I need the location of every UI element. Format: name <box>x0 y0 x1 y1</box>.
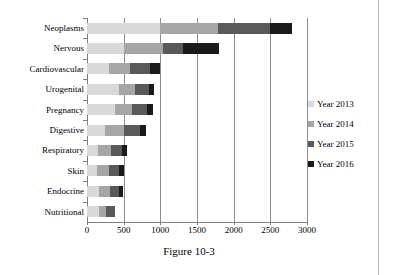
x-tick-label-500: 500 <box>117 225 131 235</box>
bar-row: Neoplasms <box>0 18 378 38</box>
legend-item-year-2015[interactable]: Year 2015 <box>308 134 378 154</box>
category-label-nutritional: Nutritional <box>0 202 84 222</box>
figure-container: NeoplasmsNervousCardiovascularUrogenital… <box>0 0 378 275</box>
category-label-skin: Skin <box>0 161 84 181</box>
bar-segment-year-2014 <box>115 104 132 115</box>
category-label-cardiovascular: Cardiovascular <box>0 59 84 79</box>
chart-legend: Year 2013Year 2014Year 2015Year 2016 <box>308 94 378 174</box>
stacked-bar <box>87 84 154 95</box>
x-tick-label-3000: 3000 <box>298 225 316 235</box>
bar-segment-year-2016 <box>270 23 292 34</box>
bar-segment-year-2015 <box>109 165 119 176</box>
bar-segment-year-2015 <box>110 186 118 197</box>
bar-segment-year-2016 <box>149 84 155 95</box>
square-swatch-icon <box>308 161 314 167</box>
bar-segment-year-2013 <box>87 63 109 74</box>
bar-segment-year-2014 <box>160 23 217 34</box>
legend-label: Year 2014 <box>317 119 354 129</box>
bar-row: Endocrine <box>0 181 378 201</box>
stacked-bar <box>87 145 127 156</box>
bar-segment-year-2016 <box>140 125 146 136</box>
stacked-bar <box>87 206 115 217</box>
bar-segment-year-2016 <box>119 165 124 176</box>
x-tick-label-2500: 2500 <box>261 225 279 235</box>
bar-segment-year-2015 <box>163 43 184 54</box>
stacked-bar-chart: NeoplasmsNervousCardiovascularUrogenital… <box>0 6 378 234</box>
x-axis-tick-3000 <box>307 221 308 225</box>
legend-item-year-2014[interactable]: Year 2014 <box>308 114 378 134</box>
bar-segment-year-2013 <box>87 165 97 176</box>
legend-label: Year 2016 <box>317 159 354 169</box>
bar-segment-year-2013 <box>87 84 119 95</box>
stacked-bar <box>87 125 146 136</box>
bar-segment-year-2013 <box>87 104 115 115</box>
bar-segment-year-2013 <box>87 186 99 197</box>
legend-item-year-2013[interactable]: Year 2013 <box>308 94 378 114</box>
square-swatch-icon <box>308 101 314 107</box>
bar-segment-year-2016 <box>150 63 160 74</box>
bar-segment-year-2014 <box>105 125 123 136</box>
category-label-urogenital: Urogenital <box>0 79 84 99</box>
x-tick-label-2000: 2000 <box>225 225 243 235</box>
bar-row: Nutritional <box>0 202 378 222</box>
x-axis-tick-labels: 050010001500200025003000 <box>0 225 378 241</box>
stacked-bar <box>87 23 292 34</box>
category-label-endocrine: Endocrine <box>0 181 84 201</box>
legend-item-year-2016[interactable]: Year 2016 <box>308 154 378 174</box>
stacked-bar <box>87 186 123 197</box>
bar-row: Nervous <box>0 38 378 58</box>
x-tick-label-0: 0 <box>85 225 90 235</box>
x-tick-label-1500: 1500 <box>188 225 206 235</box>
stacked-bar <box>87 43 219 54</box>
bar-segment-year-2014 <box>98 145 111 156</box>
x-tick-label-1000: 1000 <box>151 225 169 235</box>
bar-segment-year-2015 <box>132 104 147 115</box>
x-axis-tick-0 <box>87 221 88 225</box>
bar-segment-year-2014 <box>109 63 130 74</box>
bar-segment-year-2014 <box>119 84 136 95</box>
bar-segment-year-2015 <box>106 206 115 217</box>
x-axis-tick-2000 <box>234 221 235 225</box>
square-swatch-icon <box>308 121 314 127</box>
x-axis-tick-1500 <box>197 221 198 225</box>
bar-segment-year-2016 <box>122 145 126 156</box>
bar-segment-year-2016 <box>183 43 219 54</box>
bar-segment-year-2015 <box>124 125 140 136</box>
bar-segment-year-2013 <box>87 145 98 156</box>
x-axis-tick-500 <box>124 221 125 225</box>
bar-segment-year-2013 <box>87 206 99 217</box>
category-label-pregnancy: Pregnancy <box>0 100 84 120</box>
legend-label: Year 2015 <box>317 139 354 149</box>
bar-segment-year-2015 <box>130 63 151 74</box>
bar-segment-year-2016 <box>147 104 153 115</box>
square-swatch-icon <box>308 141 314 147</box>
bar-segment-year-2015 <box>135 84 148 95</box>
stacked-bar <box>87 104 153 115</box>
page-edge-rule <box>378 0 379 275</box>
bar-segment-year-2014 <box>97 165 109 176</box>
legend-label: Year 2013 <box>317 99 354 109</box>
bar-row: Cardiovascular <box>0 59 378 79</box>
bar-segment-year-2016 <box>119 186 123 197</box>
bar-segment-year-2013 <box>87 43 124 54</box>
bar-segment-year-2014 <box>124 43 163 54</box>
x-axis-tick-1000 <box>160 221 161 225</box>
bar-segment-year-2014 <box>99 186 110 197</box>
bar-segment-year-2015 <box>218 23 271 34</box>
category-label-nervous: Nervous <box>0 38 84 58</box>
category-label-digestive: Digestive <box>0 120 84 140</box>
bar-segment-year-2015 <box>111 145 122 156</box>
bar-segment-year-2014 <box>99 206 106 217</box>
bar-segment-year-2013 <box>87 125 105 136</box>
x-axis-tick-2500 <box>270 221 271 225</box>
category-label-neoplasms: Neoplasms <box>0 18 84 38</box>
stacked-bar <box>87 165 124 176</box>
stacked-bar <box>87 63 160 74</box>
figure-caption: Figure 10-3 <box>0 245 378 257</box>
category-label-respiratory: Respiratory <box>0 140 84 160</box>
bar-segment-year-2013 <box>87 23 160 34</box>
